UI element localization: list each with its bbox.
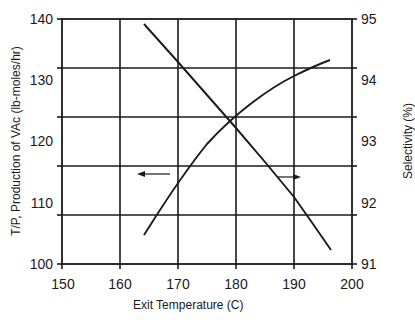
y-axis-title: T/P, Production of VAc (lb-moles/hr) xyxy=(9,26,23,256)
right-axis-arrow-icon xyxy=(277,174,301,180)
x-tick-200: 200 xyxy=(332,277,372,291)
plot-frame xyxy=(62,19,352,264)
y2-tick-92: 92 xyxy=(361,196,377,210)
gridlines xyxy=(62,19,352,264)
y2-tick-95: 95 xyxy=(361,12,377,26)
x-tick-180: 180 xyxy=(216,277,256,291)
y2-tick-93: 93 xyxy=(361,134,377,148)
y-tick-140: 140 xyxy=(13,12,53,26)
left-axis-arrow-icon xyxy=(137,171,170,177)
y2-axis-title: Selectivity (%) xyxy=(401,86,415,196)
x-tick-150: 150 xyxy=(43,277,83,291)
x-tick-190: 190 xyxy=(274,277,314,291)
y2-tick-94: 94 xyxy=(361,73,377,87)
x-axis-title: Exit Temperature (C) xyxy=(133,298,243,312)
y-tick-100: 100 xyxy=(13,257,53,271)
y2-tick-91: 91 xyxy=(361,257,377,271)
x-tick-160: 160 xyxy=(100,277,140,291)
series-tp-production-line xyxy=(144,24,331,250)
x-tick-170: 170 xyxy=(158,277,198,291)
